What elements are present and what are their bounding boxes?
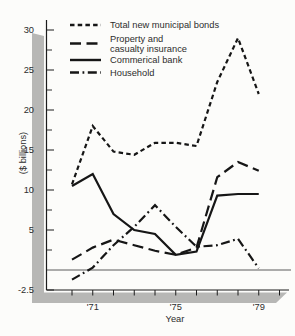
municipal-bonds-chart: 30252015105-2.5'71'75'79Total new munici… [0,0,295,336]
y-tick-label: 30 [24,25,34,35]
legend-label-property-and-casualty-insurance: Property and [110,34,163,44]
y-tick-label: -2.5 [18,285,34,295]
x-tick-label: '71 [87,302,99,312]
y-axis-title: ($ billions) [18,132,28,174]
legend-label-property-and-casualty-insurance: casualty insurance [110,44,187,54]
y-tick-label: 20 [24,105,34,115]
chart-dynamic-layer: 30252015105-2.5'71'75'79Total new munici… [18,20,280,312]
x-axis-title: Year [166,314,185,324]
y-tick-label: 25 [24,65,34,75]
axis-shadow-horizontal [32,293,287,304]
x-tick-label: '75 [170,302,182,312]
legend-label-total-new-municipal-bonds: Total new municipal bonds [110,20,219,30]
x-tick-label: '79 [253,302,265,312]
y-tick-label: 10 [24,185,34,195]
legend-label-commerical-bank: Commerical bank [110,55,183,65]
y-tick-label: 5 [29,225,34,235]
series-line-household [72,205,259,279]
legend-label-household: Household [110,68,154,78]
series-line-commerical-bank [72,174,259,255]
chart-canvas: 30252015105-2.5'71'75'79Total new munici… [0,0,295,336]
